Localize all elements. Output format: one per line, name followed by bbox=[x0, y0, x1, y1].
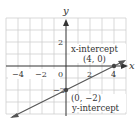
tick-x-neg4: −4 bbox=[12, 70, 24, 79]
tick-y-2: 2 bbox=[58, 38, 63, 47]
tick-x-0: 0 bbox=[58, 70, 63, 79]
x-intercept-title: x-intercept bbox=[71, 44, 118, 54]
y-axis-arrow-icon bbox=[63, 19, 69, 26]
x-axis-label: x bbox=[129, 60, 135, 71]
x-intercept-point-label: (4, 0) bbox=[83, 54, 106, 64]
y-axis-label: y bbox=[62, 5, 69, 16]
y-intercept-point-label: (0, −2) bbox=[71, 93, 101, 103]
tick-x-4: 4 bbox=[111, 70, 116, 79]
tick-x-neg2: −2 bbox=[35, 70, 47, 79]
y-intercept-title: y-intercept bbox=[71, 103, 120, 113]
y-intercept-point bbox=[64, 88, 68, 92]
x-intercept-point bbox=[112, 64, 116, 68]
coordinate-plane: y x −4 −2 0 2 4 2 −2 x-intercept (4, 0) … bbox=[0, 0, 136, 122]
